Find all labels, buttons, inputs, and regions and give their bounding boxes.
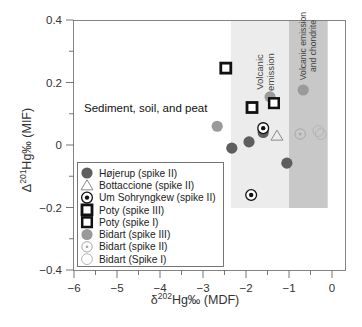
x-tick-label: −2	[239, 282, 252, 294]
legend-marker-icon	[82, 192, 93, 203]
data-point	[212, 121, 223, 132]
band-label-volcanic-chondrite: Volcanic emissionand chondrite	[298, 12, 318, 81]
x-axis-label: δ202Hg‰ (MDF)	[151, 291, 240, 307]
svg-text:Volcanicemission: Volcanicemission	[254, 53, 276, 91]
band2-line2: and chondrite	[308, 20, 318, 72]
band1-line1: Volcanic	[254, 54, 265, 90]
y-tick-label: −0.4	[39, 264, 62, 276]
legend-marker-icon	[82, 217, 92, 227]
annotation-sediment: Sediment, soil, and peat	[84, 102, 208, 114]
x-tick-label: 0	[329, 282, 335, 294]
x-tick-label: −5	[110, 282, 123, 294]
svg-text:Volcanic emissionand chondrite: Volcanic emissionand chondrite	[298, 12, 318, 81]
data-point	[246, 190, 257, 201]
legend-label: Bidart (spike III)	[99, 229, 170, 240]
x-tick-label: −1	[282, 282, 295, 294]
legend-label: Bidart (spike II)	[99, 241, 168, 252]
legend-label: Poty (spike III)	[99, 205, 164, 216]
band-volcanic	[231, 21, 289, 209]
y-tick-label: −0.2	[39, 202, 62, 214]
band-label-volcanic: Volcanicemission	[254, 53, 276, 91]
x-tick-label: −6	[67, 282, 80, 294]
legend-label: Bottaccione (spike II)	[99, 180, 194, 191]
scatter-chart: 0.40.20−0.2−0.4 −6−5−4−3−2−10 Volcanicem…	[0, 0, 362, 327]
legend-marker-icon	[81, 167, 92, 178]
data-point	[258, 123, 269, 134]
y-axis: 0.40.20−0.2−0.4	[39, 14, 73, 276]
data-point	[221, 63, 231, 73]
x-axis: −6−5−4−3−2−10	[67, 271, 335, 295]
data-point	[243, 136, 254, 147]
data-point	[247, 103, 257, 113]
data-point	[226, 143, 237, 154]
legend-label: Bidart (Spike I)	[99, 254, 166, 265]
legend-label: Poty (spike I)	[99, 217, 158, 228]
legend-marker-icon	[82, 205, 92, 215]
y-tick-label: 0.4	[46, 14, 63, 26]
data-point	[298, 84, 309, 95]
legend-label: Um Sohryngkew (spike II)	[99, 192, 216, 203]
data-point	[269, 98, 279, 108]
y-tick-label: 0.2	[46, 77, 62, 89]
y-axis-label: Δ201Hg‰ (MIF)	[18, 108, 34, 192]
legend-label: Højerup (spike II)	[99, 168, 177, 179]
legend-marker-icon	[81, 229, 92, 240]
band2-line1: Volcanic emission	[298, 12, 308, 81]
y-tick-label: 0	[56, 139, 62, 151]
data-point	[281, 158, 292, 169]
band1-line2: emission	[265, 53, 276, 91]
